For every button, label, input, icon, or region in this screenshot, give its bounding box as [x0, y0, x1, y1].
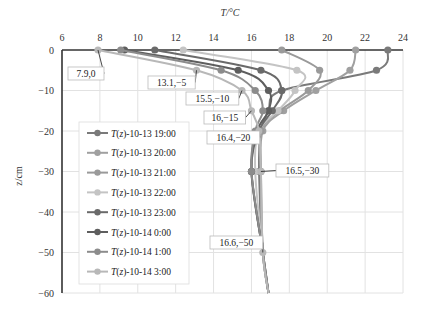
legend-label: T(z)-10-13 21:00	[111, 168, 176, 179]
legend-label: T(z)-10-13 19:00	[111, 129, 176, 140]
data-point-marker	[257, 67, 264, 74]
annotation-label: 16.5,−30	[285, 166, 319, 176]
legend-marker-swatch	[94, 150, 100, 156]
x-axis-title: T/°C	[220, 7, 239, 18]
data-point-marker	[316, 67, 323, 74]
x-tick-label: 8	[97, 32, 102, 43]
data-point-marker	[291, 87, 298, 94]
legend-marker-swatch	[94, 249, 100, 255]
legend-label: T(z)-10-13 23:00	[111, 208, 176, 219]
legend-label: T(z)-10-13 20:00	[111, 148, 176, 159]
data-point-marker	[278, 87, 285, 94]
legend-box	[79, 122, 189, 284]
data-point-marker	[180, 46, 187, 53]
data-point-marker	[278, 46, 285, 53]
y-tick-label: −30	[38, 166, 54, 177]
y-tick-label: −10	[38, 85, 54, 96]
x-tick-label: 12	[171, 32, 181, 43]
legend-marker-swatch	[94, 229, 100, 235]
data-point-marker	[252, 87, 259, 94]
x-tick-label: 20	[322, 32, 332, 43]
annotation-label: 16.4,−20	[216, 133, 250, 143]
annotation-label: 16,−15	[211, 113, 238, 123]
y-axis-title: z/cm	[13, 166, 24, 186]
legend-label: T(z)-10-14 3:00	[111, 267, 171, 278]
data-point-marker	[151, 46, 158, 53]
y-tick-label: −50	[38, 247, 54, 258]
data-point-marker	[373, 67, 380, 74]
legend-label: T(z)-10-13 22:00	[111, 188, 176, 199]
legend-marker-swatch	[94, 209, 100, 215]
legend-marker-swatch	[94, 130, 100, 136]
data-point-marker	[346, 67, 353, 74]
data-point-marker	[352, 46, 359, 53]
annotation-label: 7.9,0	[77, 69, 96, 79]
y-tick-label: −20	[38, 126, 54, 137]
y-tick-label: 0	[49, 45, 54, 56]
legend-label: T(z)-10-14 0:00	[111, 228, 171, 239]
temperature-profile-chart: 6810121416182022240−10−20−30−40−50−60 7.…	[0, 0, 423, 316]
legend-marker-swatch	[94, 189, 100, 195]
y-tick-label: −40	[38, 207, 54, 218]
data-point-marker	[265, 87, 272, 94]
x-tick-label: 14	[209, 32, 219, 43]
legend-marker-swatch	[94, 169, 100, 175]
x-tick-label: 10	[133, 32, 143, 43]
data-point-marker	[293, 67, 300, 74]
data-point-marker	[259, 107, 266, 114]
data-point-marker	[305, 87, 312, 94]
data-point-marker	[235, 67, 242, 74]
x-tick-label: 24	[398, 32, 408, 43]
legend-label: T(z)-10-14 1:00	[111, 247, 171, 258]
data-point-marker	[218, 67, 225, 74]
annotation-label: 15.5,−10	[195, 94, 229, 104]
annotation-label: 16.6,−50	[219, 238, 253, 248]
data-point-marker	[248, 168, 255, 175]
x-tick-label: 18	[284, 32, 294, 43]
legend-marker-swatch	[94, 268, 100, 274]
x-tick-label: 22	[360, 32, 370, 43]
legend: T(z)-10-13 19:00T(z)-10-13 20:00T(z)-10-…	[79, 122, 189, 284]
x-tick-label: 16	[246, 32, 256, 43]
annotation-label: 13.1,−5	[157, 78, 186, 88]
y-tick-label: −60	[38, 288, 54, 299]
data-point-marker	[117, 46, 124, 53]
data-point-marker	[312, 87, 319, 94]
x-tick-label: 6	[60, 32, 65, 43]
data-point-marker	[384, 46, 391, 53]
